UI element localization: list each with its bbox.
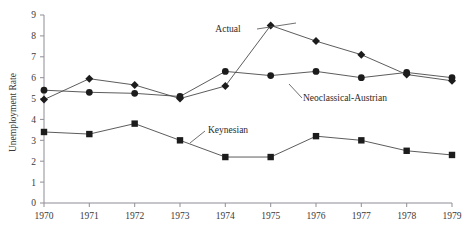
y-tick-label: 4: [31, 115, 36, 125]
series-line: [44, 25, 452, 99]
data-point: [313, 68, 320, 75]
data-point: [222, 68, 229, 75]
x-tick-label: 1974: [216, 211, 235, 221]
data-point: [131, 90, 138, 97]
series-neoclassical-austrian: [41, 68, 456, 100]
x-tick-label: 1976: [307, 211, 326, 221]
data-point: [267, 72, 274, 79]
y-axis-title: Unemployment Rate: [8, 73, 18, 152]
data-point: [449, 74, 456, 81]
data-point: [313, 133, 319, 139]
x-tick-label: 1975: [261, 211, 280, 221]
series-label-keynesian: Keynesian: [208, 125, 248, 135]
series-label-neoclassical-austrian: Neoclassical-Austrian: [303, 93, 387, 103]
y-tick-label: 7: [31, 52, 36, 62]
data-point: [40, 96, 48, 104]
data-point: [403, 69, 410, 76]
x-axis-ticks: [44, 203, 452, 207]
x-tick-label: 1972: [125, 211, 144, 221]
x-tick-label: 1979: [443, 211, 462, 221]
x-tick-label: 1970: [35, 211, 54, 221]
x-tick-label: 1971: [80, 211, 99, 221]
data-point: [221, 82, 229, 90]
data-point: [131, 81, 139, 89]
data-point: [357, 51, 365, 59]
leader-line-neoclassical-austrian: [289, 84, 302, 98]
data-point: [312, 37, 320, 45]
y-tick-label: 3: [31, 136, 36, 146]
data-point: [449, 152, 455, 158]
leader-line-keynesian: [190, 131, 205, 143]
y-tick-label: 6: [31, 73, 36, 83]
y-tick-label: 2: [31, 157, 36, 167]
data-point: [358, 74, 365, 81]
data-point: [267, 21, 275, 29]
y-tick-label: 9: [31, 10, 36, 20]
data-point: [403, 148, 409, 154]
y-tick-label: 1: [31, 178, 36, 188]
series-label-actual: Actual: [215, 24, 241, 34]
x-tick-label: 1977: [352, 211, 371, 221]
y-tick-label: 8: [31, 31, 36, 41]
data-point: [177, 93, 184, 100]
series-actual: [40, 21, 456, 103]
data-point: [267, 154, 273, 160]
data-point: [86, 89, 93, 96]
leader-line-actual: [257, 23, 296, 29]
data-point: [85, 75, 93, 83]
data-point: [41, 87, 48, 94]
y-axis-tick-labels: 9 8 7 6 5 4 3 2 1 0: [31, 10, 36, 208]
data-point: [222, 154, 228, 160]
data-point: [177, 137, 183, 143]
data-point: [41, 129, 47, 135]
series-line: [44, 71, 452, 96]
series-layer: [40, 21, 456, 160]
chart-container: 9 8 7 6 5 4 3 2 1 0 Unemployment Rate: [0, 0, 465, 242]
x-axis-tick-labels: 1970 1971 1972 1973 1974 1975 1976 1977 …: [35, 211, 462, 221]
data-point: [358, 137, 364, 143]
y-tick-label: 5: [31, 94, 36, 104]
unemployment-rate-line-chart: 9 8 7 6 5 4 3 2 1 0 Unemployment Rate: [0, 0, 465, 242]
y-axis-ticks: [40, 15, 44, 203]
data-point: [86, 131, 92, 137]
data-point: [131, 120, 137, 126]
x-tick-label: 1978: [397, 211, 416, 221]
y-tick-label: 0: [31, 198, 36, 208]
x-tick-label: 1973: [171, 211, 190, 221]
